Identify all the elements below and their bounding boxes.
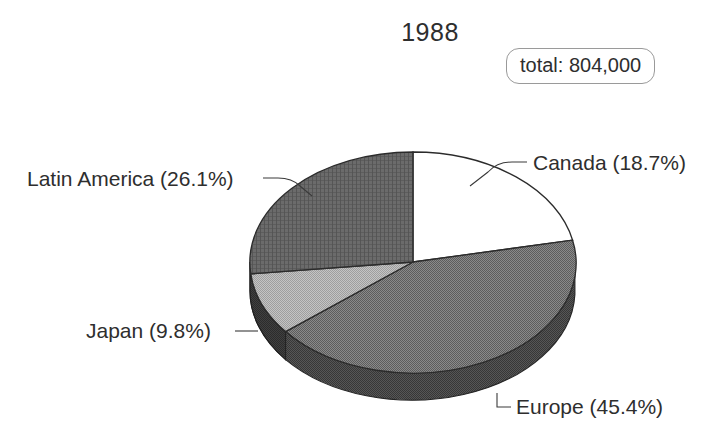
slice-label-europe: Europe (45.4%) [516, 396, 663, 417]
leader-line-europe [497, 393, 511, 407]
slice-label-japan: Japan (9.8%) [86, 320, 211, 341]
pie-slice-latin-america [250, 152, 413, 274]
slice-label-canada: Canada (18.7%) [533, 152, 686, 173]
pie-chart-figure: 1988 total: 804,000 [0, 0, 723, 445]
pie-graphic [0, 0, 723, 445]
slice-label-latin-america: Latin America (26.1%) [27, 168, 234, 189]
